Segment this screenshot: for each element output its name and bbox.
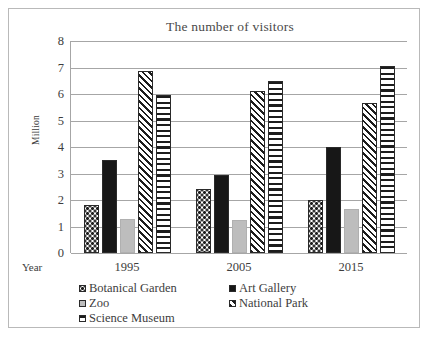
x-axis-tick-label: 2005 — [183, 260, 295, 275]
bar-group-bars — [71, 41, 183, 253]
x-axis-tick-label: 2015 — [295, 260, 407, 275]
bar-group: 2005 — [183, 41, 295, 253]
y-axis-tick-label: 5 — [58, 113, 64, 128]
legend-swatch-icon — [79, 315, 86, 322]
legend-label: Art Gallery — [239, 281, 296, 296]
legend-row: Science Museum — [79, 311, 379, 326]
bar — [344, 209, 359, 253]
legend-label: Botanical Garden — [89, 281, 177, 296]
bar — [362, 103, 377, 253]
y-axis-tick-label: 7 — [58, 60, 64, 75]
legend-item[interactable]: Zoo — [79, 296, 229, 311]
bar — [250, 91, 265, 253]
y-axis-tick-label: 2 — [58, 193, 64, 208]
legend-item[interactable]: Art Gallery — [229, 281, 379, 296]
x-axis-tick-label: 1995 — [71, 260, 183, 275]
legend-item[interactable]: Science Museum — [79, 311, 229, 326]
bar — [232, 220, 247, 253]
x-axis-title: Year — [22, 261, 42, 273]
legend-label: National Park — [239, 296, 308, 311]
bar — [156, 95, 171, 253]
y-axis-tick-label: 4 — [58, 140, 64, 155]
legend-row: Botanical GardenArt Gallery — [79, 281, 379, 296]
y-axis-tick-label: 1 — [58, 219, 64, 234]
y-axis-tick-label: 6 — [58, 87, 64, 102]
y-axis-tick-label: 8 — [58, 34, 64, 49]
bar-group-bars — [183, 41, 295, 253]
legend-row: ZooNational Park — [79, 296, 379, 311]
bar — [196, 189, 211, 253]
bar-group: 1995 — [71, 41, 183, 253]
chart-frame: The number of visitors Million Year 0123… — [8, 8, 420, 328]
bar — [84, 205, 99, 253]
legend-label: Zoo — [89, 296, 109, 311]
bar — [380, 66, 395, 253]
y-axis-tick-label: 3 — [58, 166, 64, 181]
chart-title: The number of visitors — [9, 19, 419, 35]
chart-legend: Botanical GardenArt GalleryZooNational P… — [79, 281, 379, 326]
legend-item[interactable]: National Park — [229, 296, 379, 311]
bar — [308, 200, 323, 253]
bar-group: 2015 — [295, 41, 407, 253]
legend-item[interactable]: Botanical Garden — [79, 281, 229, 296]
legend-swatch-icon — [229, 285, 236, 292]
legend-swatch-icon — [79, 285, 86, 292]
bar-group-bars — [295, 41, 407, 253]
bar — [326, 147, 341, 253]
gridline — [71, 253, 407, 254]
legend-swatch-icon — [229, 300, 236, 307]
y-axis-title: Million — [31, 115, 41, 145]
legend-swatch-icon — [79, 300, 86, 307]
y-axis-tick-label: 0 — [58, 246, 64, 261]
bar — [102, 160, 117, 253]
plot-area: 012345678 199520052015 — [71, 41, 407, 253]
bar — [120, 219, 135, 253]
bar — [268, 81, 283, 253]
bar — [214, 175, 229, 253]
legend-label: Science Museum — [89, 311, 175, 326]
bar — [138, 71, 153, 253]
